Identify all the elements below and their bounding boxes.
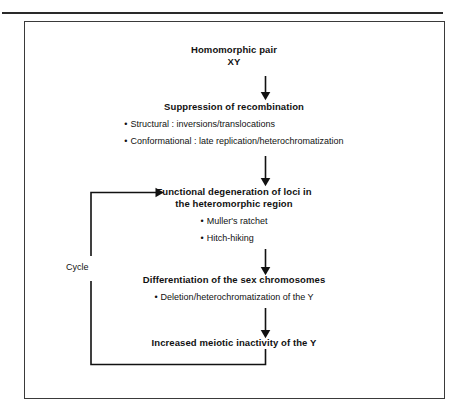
list-item-label: Deletion/heterochromatization of the Y (161, 292, 314, 302)
list-item: •Muller's ratchet (201, 216, 268, 227)
node-functional-title-line-1: Functional degeneration of loci in (0, 186, 468, 198)
node-differentiation-title: Differentiation of the sex chromosomes (0, 274, 468, 286)
node-increased-meiotic-inactivity: Increased meiotic inactivity of the Y (0, 337, 468, 349)
list-item-label: Muller's ratchet (207, 216, 268, 226)
node-functional-title-line-2: the heteromorphic region (0, 198, 468, 210)
feedback-loop-label: Cycle (63, 261, 92, 273)
list-item: •Deletion/heterochromatization of the Y (154, 292, 313, 303)
bullet-dot-icon: • (124, 136, 127, 146)
list-item-label: Conformational : late replication/hetero… (131, 136, 344, 146)
list-item: •Hitch-hiking (201, 233, 268, 244)
node-suppression-bullets-wrap: •Structural : inversions/translocations … (0, 113, 468, 148)
node-increased-title: Increased meiotic inactivity of the Y (0, 337, 468, 349)
node-functional-degeneration: Functional degeneration of loci in the h… (0, 186, 468, 244)
figure-root: Homomorphic pair XY Suppression of recom… (0, 0, 468, 420)
node-homomorphic-title-line-1: Homomorphic pair (0, 44, 468, 56)
node-functional-bullets-wrap: •Muller's ratchet •Hitch-hiking (0, 210, 468, 245)
list-item: •Conformational : late replication/heter… (124, 136, 343, 147)
node-differentiation-sex-chromosomes: Differentiation of the sex chromosomes •… (0, 274, 468, 303)
node-differentiation-bullets-wrap: •Deletion/heterochromatization of the Y (0, 286, 468, 303)
node-homomorphic-pair: Homomorphic pair XY (0, 44, 468, 68)
node-differentiation-bullets: •Deletion/heterochromatization of the Y (154, 286, 313, 303)
node-suppression-bullets: •Structural : inversions/translocations … (124, 113, 343, 148)
node-homomorphic-title-line-2: XY (0, 56, 468, 68)
node-functional-bullets: •Muller's ratchet •Hitch-hiking (201, 210, 268, 245)
bullet-dot-icon: • (154, 292, 157, 302)
bullet-dot-icon: • (201, 233, 204, 243)
node-suppression-title: Suppression of recombination (0, 101, 468, 113)
bullet-dot-icon: • (124, 119, 127, 129)
top-horizontal-rule (2, 12, 443, 14)
list-item: •Structural : inversions/translocations (124, 119, 343, 130)
list-item-label: Hitch-hiking (207, 233, 254, 243)
bullet-dot-icon: • (201, 216, 204, 226)
list-item-label: Structural : inversions/translocations (131, 119, 276, 129)
node-suppression-of-recombination: Suppression of recombination •Structural… (0, 101, 468, 147)
